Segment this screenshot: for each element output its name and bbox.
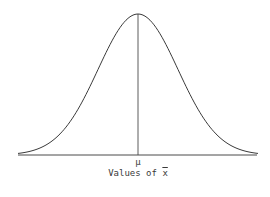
x-bar-symbol: x bbox=[162, 168, 167, 178]
x-axis-label-text: Values of bbox=[108, 168, 162, 178]
x-axis-label: Values of x bbox=[98, 168, 178, 178]
mu-tick-label: μ bbox=[128, 157, 148, 167]
